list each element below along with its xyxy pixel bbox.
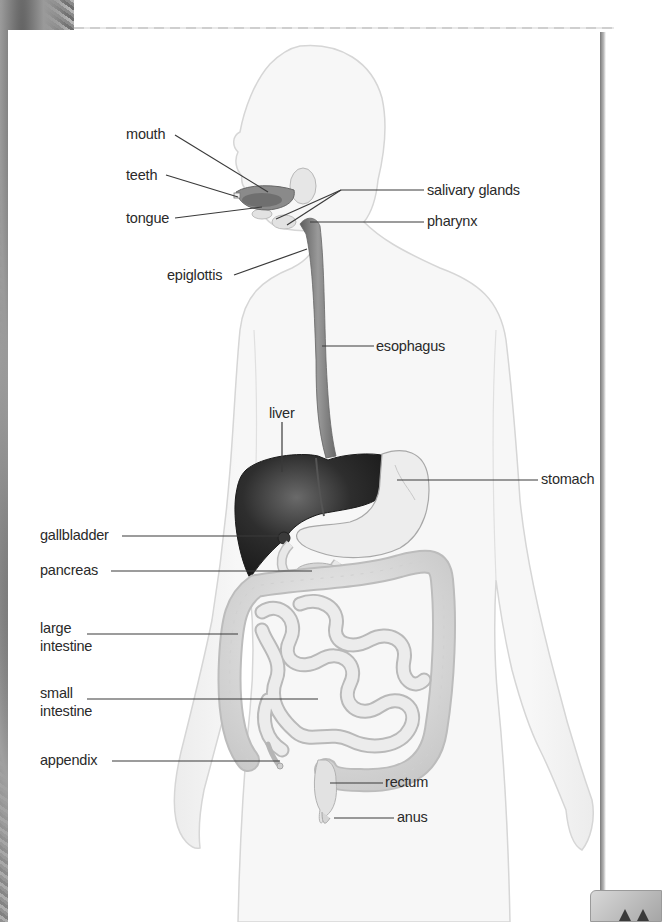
label-teeth: teeth	[126, 167, 157, 184]
label-small-intestine-line1: small	[40, 685, 73, 702]
appendix-tip	[277, 763, 283, 769]
label-tongue: tongue	[126, 210, 169, 227]
digestive-system-illustration	[0, 0, 662, 922]
label-rectum: rectum	[385, 774, 428, 791]
label-stomach: stomach	[541, 471, 594, 488]
label-epiglottis: epiglottis	[167, 267, 222, 284]
label-gallbladder: gallbladder	[40, 527, 109, 544]
label-mouth: mouth	[126, 126, 165, 143]
label-pharynx: pharynx	[427, 213, 477, 230]
label-small-intestine-line2: intestine	[40, 703, 92, 720]
label-salivary-glands: salivary glands	[427, 182, 520, 199]
arrow-icon	[619, 909, 631, 921]
label-large-intestine-line2: intestine	[40, 638, 92, 655]
label-pancreas: pancreas	[40, 562, 98, 579]
label-esophagus: esophagus	[376, 338, 445, 355]
label-appendix: appendix	[40, 752, 97, 769]
page-corner-tab[interactable]	[590, 890, 662, 922]
arrow-icon	[637, 909, 649, 921]
label-liver: liver	[269, 405, 295, 422]
label-large-intestine-line1: large	[40, 620, 71, 637]
label-anus: anus	[397, 809, 428, 826]
